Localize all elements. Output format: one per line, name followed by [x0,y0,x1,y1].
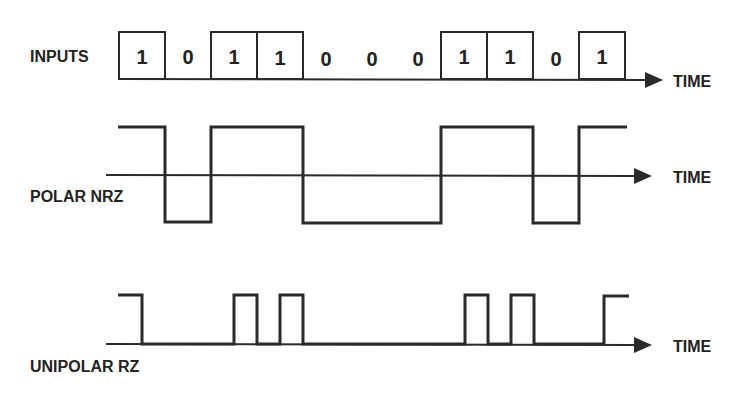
unipolar-rz-label: UNIPOLAR RZ [30,358,140,375]
bit-value: 1 [504,46,515,68]
arrow-right-icon [634,168,652,184]
arrow-right-icon [634,337,652,353]
inputs-label: INPUTS [30,48,89,65]
bit-value: 1 [274,47,285,69]
bit-value: 0 [320,48,331,70]
line-coding-diagram: INPUTS 1 0 1 1 0 0 0 1 1 0 1 TIME TIME P… [0,0,755,396]
bit-value: 1 [136,46,147,68]
inputs-time-axis [119,79,648,80]
bit-value: 0 [182,46,193,68]
polar-nrz-time-axis [106,175,637,176]
bit-value: 1 [228,46,239,68]
bit-value: 0 [366,48,377,70]
bit-value: 0 [412,48,423,70]
bit-value: 0 [550,48,561,70]
time-label: TIME [673,169,712,186]
bit-value: 1 [458,46,469,68]
time-label: TIME [673,73,712,90]
polar-nrz-label: POLAR NRZ [30,188,124,205]
unipolar-rz-waveform [118,295,629,344]
input-bit-values: 1 0 1 1 0 0 0 1 1 0 1 [136,46,607,70]
time-label: TIME [673,338,712,355]
arrow-right-icon [645,72,663,88]
bit-value: 1 [596,46,607,68]
